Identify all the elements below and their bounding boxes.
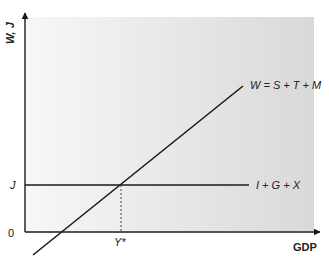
withdrawals-line-label: W = S + T + M (250, 79, 321, 91)
origin-label: 0 (8, 227, 14, 239)
x-axis-label: GDP (293, 241, 317, 253)
plot-panel (26, 17, 314, 231)
y-axis-label: W, J (4, 22, 16, 44)
diagram-canvas (0, 0, 329, 263)
ystar-tick-label: Y* (114, 236, 126, 248)
injections-line-label: I + G + X (256, 179, 300, 191)
withdrawals-injections-diagram: W, J GDP 0 J Y* W = S + T + M I + G + X (0, 0, 329, 263)
j-tick-label: J (10, 179, 16, 191)
